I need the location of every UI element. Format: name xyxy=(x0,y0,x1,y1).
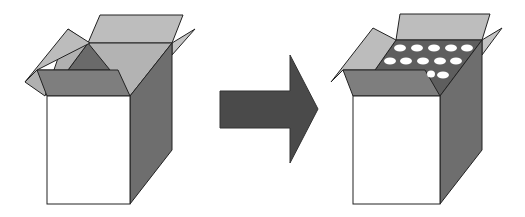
hole xyxy=(434,58,446,65)
hole xyxy=(417,58,429,65)
arrow-right-icon xyxy=(220,55,318,163)
front-face xyxy=(353,96,440,204)
filled-box xyxy=(331,14,502,204)
hole xyxy=(437,72,449,79)
empty-box xyxy=(25,15,195,204)
hole xyxy=(384,58,396,65)
right-flap xyxy=(482,28,502,55)
hole xyxy=(428,45,440,52)
front-face xyxy=(47,96,130,204)
front-flap xyxy=(343,70,440,96)
hole xyxy=(411,45,423,52)
diagram-canvas xyxy=(0,0,525,217)
front-flap xyxy=(37,70,130,96)
hole xyxy=(400,58,412,65)
hole xyxy=(394,45,406,52)
hole xyxy=(427,71,435,78)
hole xyxy=(445,45,457,52)
hole xyxy=(450,58,462,65)
back-flap xyxy=(88,15,183,43)
back-flap xyxy=(396,14,490,40)
hole xyxy=(461,45,473,52)
